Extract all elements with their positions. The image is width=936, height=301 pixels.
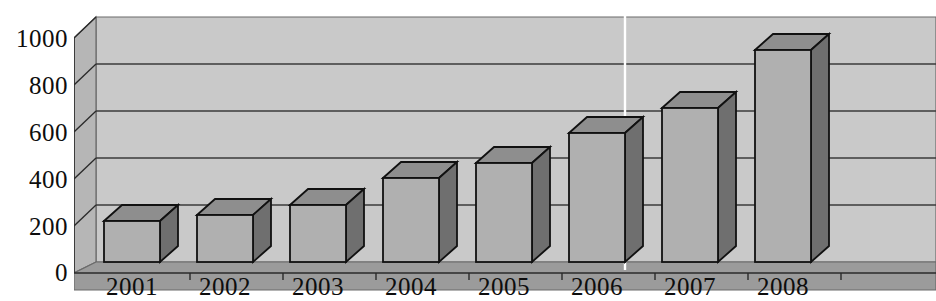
left-wall [74, 17, 96, 273]
x-tick-label-2007: 2007 [664, 272, 716, 301]
x-tick-label-2002: 2002 [199, 272, 251, 301]
bar-2003-face [290, 205, 346, 262]
bar-2005-side [532, 147, 550, 262]
bar-2003[interactable] [290, 189, 364, 262]
bar-2002-face [197, 215, 253, 262]
bar-2005[interactable] [476, 147, 550, 262]
bar-2004-face [383, 178, 439, 262]
bar-2007[interactable] [662, 92, 736, 262]
y-tick-label-1000: 1000 [16, 26, 68, 51]
bar-2007-side [718, 92, 736, 262]
y-tick-label-200: 200 [29, 214, 68, 239]
bar-2008-face [755, 50, 811, 262]
bar-2008[interactable] [755, 34, 829, 262]
x-tick-label-2003: 2003 [292, 272, 344, 301]
bar-chart: 1000 800 600 400 200 0 [0, 0, 936, 301]
plot-svg [74, 0, 936, 301]
bar-2006-side [625, 117, 643, 262]
bar-2006[interactable] [569, 117, 643, 262]
x-tick-label-2006: 2006 [571, 272, 623, 301]
bar-2001-face [104, 221, 160, 262]
y-axis: 1000 800 600 400 200 0 [0, 0, 74, 301]
x-tick-label-2001: 2001 [106, 272, 158, 301]
y-tick-label-800: 800 [29, 73, 68, 98]
x-tick-label-2005: 2005 [478, 272, 530, 301]
bar-2002[interactable] [197, 199, 271, 262]
x-tick-label-2004: 2004 [385, 272, 437, 301]
x-tick-label-2008: 2008 [757, 272, 809, 301]
y-tick-label-600: 600 [29, 120, 68, 145]
plot-area [74, 0, 936, 301]
bar-2004[interactable] [383, 162, 457, 262]
y-tick-label-400: 400 [29, 167, 68, 192]
bar-2008-side [811, 34, 829, 262]
bar-2006-face [569, 133, 625, 262]
bar-2007-face [662, 108, 718, 262]
x-axis: 2001 2002 2003 2004 2005 2006 2007 2008 [0, 270, 936, 301]
bar-2001[interactable] [104, 205, 178, 262]
bar-2004-side [439, 162, 457, 262]
bar-2005-face [476, 163, 532, 262]
